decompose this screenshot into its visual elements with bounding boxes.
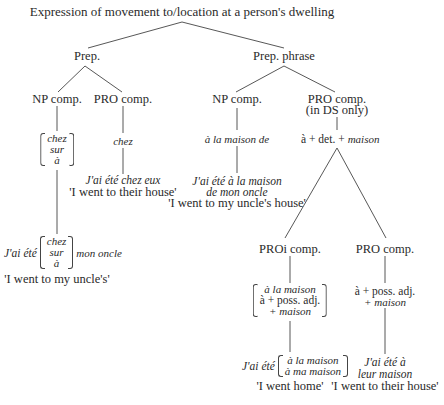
node-pro-comp-2: PRO comp. bbox=[356, 243, 414, 256]
proi-options-brace: à la maison à + poss. adj. + maison bbox=[253, 284, 327, 317]
example-options-brace: chez sur à bbox=[40, 236, 74, 269]
pro2-gloss: 'I went to their house' bbox=[331, 380, 438, 393]
node-prep-np-comp: NP comp. bbox=[32, 93, 82, 106]
example-prefix: J'ai été bbox=[4, 247, 37, 259]
node-prep-pro-comp: PRO comp. bbox=[94, 93, 152, 106]
proi-example-prefix: J'ai été bbox=[242, 360, 275, 372]
pp-pro-form-a: à + det. + bbox=[301, 133, 345, 145]
node-pp-pro-comp-note: (in DS only) bbox=[306, 104, 369, 117]
pro2-form-line2: + maison bbox=[364, 296, 406, 309]
example-suffix: mon oncle bbox=[76, 247, 122, 259]
proi-example: J'ai été à la maison à ma maison bbox=[242, 355, 348, 377]
proi-example-brace: à la maison à ma maison bbox=[278, 355, 348, 377]
node-proi-comp: PROi comp. bbox=[259, 243, 321, 256]
node-prep: Prep. bbox=[74, 50, 100, 63]
pp-pro-form: à + det. + maison bbox=[301, 133, 379, 145]
prep-pro-gloss: 'I went to their house' bbox=[69, 186, 176, 199]
prep-np-gloss: 'I went to my uncle's' bbox=[4, 273, 109, 286]
proi-example-option: à ma maison bbox=[285, 366, 341, 377]
node-pp-np-comp: NP comp. bbox=[212, 93, 262, 106]
diagram-title: Expression of movement to/location at a … bbox=[30, 5, 335, 18]
proi-gloss: 'I went home' bbox=[257, 380, 324, 393]
proi-option: + maison bbox=[269, 306, 311, 317]
pp-pro-form-b: maison bbox=[348, 133, 380, 145]
prep-np-example: J'ai été chez sur à mon oncle bbox=[4, 236, 122, 269]
example-option: à bbox=[54, 258, 60, 269]
prep-pro-form: chez bbox=[113, 135, 133, 148]
option-a: à bbox=[54, 155, 60, 166]
pp-np-form: à la maison de bbox=[205, 133, 269, 146]
node-prep-phrase: Prep. phrase bbox=[253, 50, 315, 63]
pp-np-gloss: 'I went to my uncle's house' bbox=[168, 197, 306, 210]
prep-np-options-brace: chez sur à bbox=[40, 133, 74, 166]
